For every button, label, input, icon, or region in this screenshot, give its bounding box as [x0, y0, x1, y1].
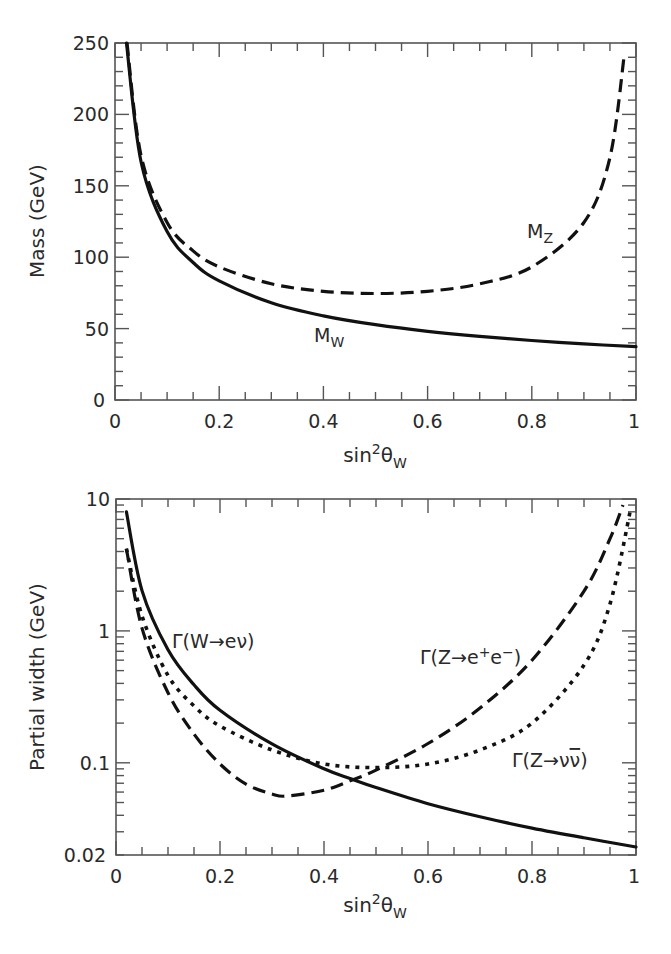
- mass-curves: [127, 43, 637, 347]
- mass-x-axis-title: sin2θW: [343, 441, 407, 471]
- mass-y-tick: 250: [73, 32, 109, 54]
- mass-y-axis-title: Mass (GeV): [25, 164, 49, 278]
- width-x-axis-title: sin2θW: [343, 891, 407, 921]
- mass-chart: 00.20.40.60.81050100150200250 Mass (GeV)…: [25, 32, 640, 471]
- width-y-axis-title: Partial width (GeV): [25, 583, 49, 771]
- gamma-znn-label: Γ(Z→νν): [512, 749, 588, 771]
- mass-y-tick: 150: [73, 175, 109, 197]
- width-x-tick: 0: [110, 865, 122, 887]
- mass-tick-labels: 00.20.40.60.81050100150200250: [73, 32, 640, 432]
- mz-curve-label: MZ: [527, 220, 553, 246]
- gamma-zee-label: Γ(Z→e+e−): [420, 644, 521, 668]
- mw-curve-label: MW: [314, 324, 344, 350]
- mass-x-tick: 0: [109, 410, 121, 432]
- width-x-tick: 0.8: [517, 865, 547, 887]
- curve-solid: [126, 512, 636, 847]
- mass-x-tick: 0.8: [517, 410, 547, 432]
- mass-axis-ticks: [115, 43, 636, 400]
- mass-x-tick: 0.6: [412, 410, 442, 432]
- width-plot-frame: [116, 499, 636, 855]
- mass-y-tick: 200: [73, 103, 109, 125]
- width-curves: [126, 505, 636, 847]
- mass-x-tick: 1: [628, 410, 640, 432]
- curve-dashed: [127, 43, 625, 294]
- mass-x-tick: 0.4: [308, 410, 338, 432]
- gamma-w-label: Γ(W→eν): [172, 630, 254, 652]
- mass-y-tick: 100: [73, 246, 109, 268]
- width-axis-ticks: [116, 499, 636, 855]
- width-y-tick: 10: [86, 488, 110, 510]
- width-tick-labels: 00.20.40.60.810.020.1110: [64, 488, 640, 887]
- curve-solid: [127, 43, 637, 347]
- width-x-tick: 0.4: [309, 865, 339, 887]
- width-x-tick: 0.6: [413, 865, 443, 887]
- mass-y-tick: 50: [85, 318, 109, 340]
- mass-plot-frame: [115, 43, 636, 400]
- width-y-tick: 0.02: [64, 844, 106, 866]
- mass-x-tick: 0.2: [204, 410, 234, 432]
- width-x-tick: 0.2: [205, 865, 235, 887]
- width-y-tick: 1: [98, 620, 110, 642]
- partial-width-chart: 00.20.40.60.810.020.1110 Partial width (…: [25, 488, 640, 921]
- chart-canvas: 00.20.40.60.81050100150200250 Mass (GeV)…: [0, 0, 671, 954]
- width-y-tick: 0.1: [80, 752, 110, 774]
- width-x-tick: 1: [628, 865, 640, 887]
- mass-y-tick: 0: [93, 389, 105, 411]
